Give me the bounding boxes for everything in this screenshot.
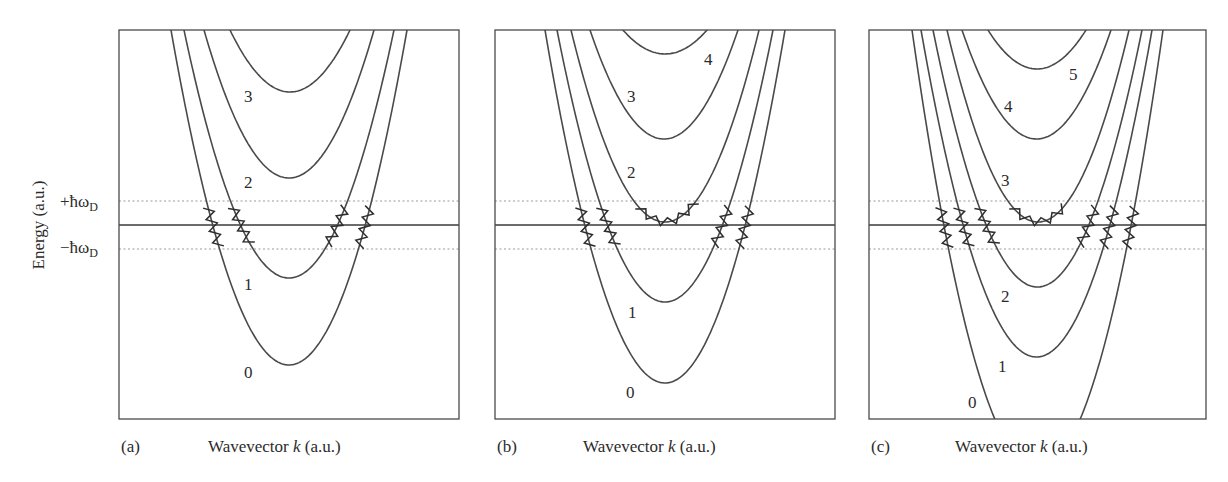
subband-dispersion-figure: 012301234012345 Energy (a.u.) +ħωD −ħωD … <box>0 0 1228 482</box>
subband-curve-2 <box>200 16 377 178</box>
subband-label-2: 2 <box>1001 287 1010 306</box>
phonon-coupling-zigzag <box>596 208 620 244</box>
subband-curve-0 <box>908 2 1166 471</box>
panel-a: 0123 <box>119 7 459 419</box>
subband-label-1: 1 <box>998 357 1007 376</box>
subband-label-3: 3 <box>244 87 253 106</box>
subband-label-2: 2 <box>627 163 636 182</box>
phonon-coupling-zigzag <box>356 206 374 249</box>
panel-tag-b: (b) <box>497 437 517 456</box>
subband-curve-1 <box>917 7 1156 357</box>
phonon-coupling-zigzag <box>953 208 974 246</box>
subband-label-1: 1 <box>244 275 253 294</box>
subband-curve-3 <box>226 22 354 93</box>
subband-curve-2 <box>929 10 1145 287</box>
subband-label-0: 0 <box>968 393 977 412</box>
phonon-coupling-zigzag <box>1100 206 1118 249</box>
panel-tag-c: (c) <box>871 437 890 456</box>
subband-curve-4 <box>958 18 1114 139</box>
subband-label-0: 0 <box>244 363 253 382</box>
x-axis-label-b: Wavevector k (a.u.) <box>583 437 716 456</box>
subband-label-4: 4 <box>704 50 713 69</box>
panel-b: 01234 <box>495 6 835 419</box>
subband-label-2: 2 <box>244 173 253 192</box>
y-axis-label: Energy (a.u.) <box>29 181 48 270</box>
subband-label-4: 4 <box>1004 97 1013 116</box>
phonon-coupling-zigzag <box>974 208 1000 243</box>
panel-b-caption: (b) Wavevector k (a.u.) <box>497 437 716 456</box>
plus-hbar-omega-d-label: +ħωD <box>60 192 98 214</box>
panels: 012301234012345 <box>119 2 1206 471</box>
subband-curve-0 <box>167 7 410 365</box>
subband-label-1: 1 <box>628 303 637 322</box>
x-axis-label-c: Wavevector k (a.u.) <box>955 437 1088 456</box>
panel-tag-a: (a) <box>121 437 140 456</box>
subband-label-3: 3 <box>1001 171 1010 190</box>
phonon-coupling-zigzag <box>1123 206 1139 249</box>
phonon-coupling-zigzag <box>736 206 753 249</box>
subband-label-5: 5 <box>1069 65 1078 84</box>
phonon-coupling-zigzag <box>712 205 732 248</box>
subband-label-0: 0 <box>626 383 635 402</box>
panel-c-caption: (c) Wavevector k (a.u.) <box>871 437 1088 456</box>
phonon-coupling-zigzag <box>575 208 595 246</box>
subband-label-3: 3 <box>627 87 636 106</box>
panel-c: 012345 <box>869 2 1206 471</box>
phonon-coupling-zigzag <box>203 208 224 246</box>
phonon-coupling-zigzag <box>936 208 954 247</box>
panel-a-caption: (a) Wavevector k (a.u.) <box>121 437 341 456</box>
subband-curve-3 <box>943 13 1132 222</box>
x-axis-label-a: Wavevector k (a.u.) <box>208 437 341 456</box>
subband-curve-3 <box>586 18 742 139</box>
minus-hbar-omega-d-label: −ħωD <box>60 238 98 260</box>
